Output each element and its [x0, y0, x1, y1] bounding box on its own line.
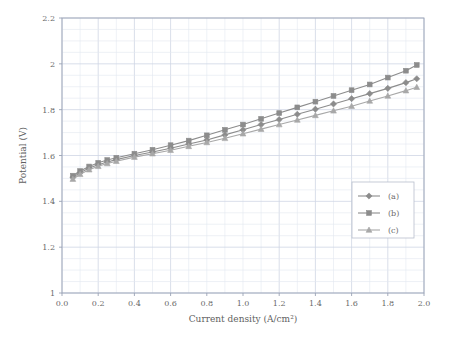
y-tick-label: 1.8 — [42, 106, 55, 115]
series-marker — [259, 116, 264, 121]
plot-area: 0.00.20.40.60.81.01.21.41.61.82.011.21.4… — [0, 0, 450, 344]
series-marker — [241, 122, 246, 127]
y-tick-label: 1.2 — [42, 243, 55, 252]
x-tick-label: 0.2 — [92, 299, 105, 308]
line-chart: 0.00.20.40.60.81.01.21.41.61.82.011.21.4… — [0, 0, 450, 344]
series-marker — [277, 111, 282, 116]
x-tick-label: 0.4 — [128, 299, 141, 308]
y-tick-label: 1 — [50, 289, 55, 298]
x-tick-label: 2.0 — [418, 299, 431, 308]
y-tick-label: 2 — [50, 60, 55, 69]
legend-label: (b) — [388, 209, 399, 218]
x-tick-label: 0.0 — [56, 299, 69, 308]
series-marker — [295, 105, 300, 110]
x-tick-label: 1.4 — [309, 299, 322, 308]
y-tick-label: 1.6 — [42, 152, 55, 161]
y-tick-label: 1.4 — [42, 197, 55, 206]
series-marker — [186, 138, 191, 143]
x-tick-label: 0.8 — [200, 299, 213, 308]
legend-label: (a) — [388, 192, 399, 201]
series-marker — [367, 82, 372, 87]
series-marker — [223, 127, 228, 132]
y-axis-title: Potential (V) — [18, 127, 28, 184]
legend: (a)(b)(c) — [352, 182, 414, 238]
x-tick-label: 1.0 — [237, 299, 250, 308]
y-tick-label: 2.2 — [42, 14, 55, 23]
series-marker — [204, 133, 209, 138]
x-tick-label: 1.6 — [345, 299, 358, 308]
series-marker — [385, 75, 390, 80]
series-marker — [367, 211, 372, 216]
legend-label: (c) — [388, 226, 399, 235]
series-marker — [313, 99, 318, 104]
chart-page: 0.00.20.40.60.81.01.21.41.61.82.011.21.4… — [0, 0, 450, 344]
x-tick-label: 1.8 — [381, 299, 394, 308]
series-marker — [331, 94, 336, 99]
series-marker — [404, 68, 409, 73]
x-tick-label: 1.2 — [273, 299, 286, 308]
x-axis-title: Current density (A/cm²) — [189, 314, 298, 324]
series-marker — [414, 63, 419, 68]
x-tick-label: 0.6 — [164, 299, 177, 308]
series-marker — [349, 88, 354, 93]
